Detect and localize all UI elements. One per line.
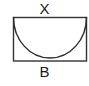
inscribed-semi-ellipse-arc	[14, 18, 87, 59]
label-x: X	[0, 1, 89, 16]
label-b: B	[0, 64, 89, 79]
geometry-figure: X B	[0, 0, 89, 86]
bounding-rectangle	[14, 18, 87, 62]
